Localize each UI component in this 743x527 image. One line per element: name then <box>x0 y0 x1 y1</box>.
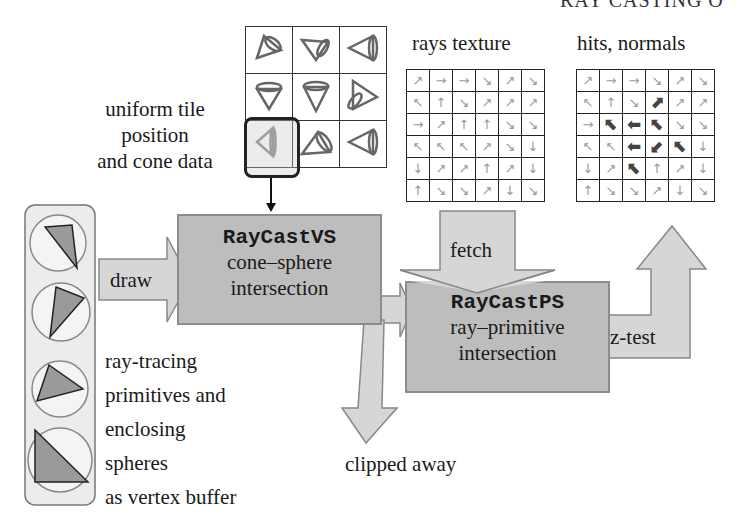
ray-direction-arrow-icon: ↘ <box>522 180 545 202</box>
ray-direction-arrow-icon: ↗ <box>600 158 623 180</box>
primitive-sphere-4 <box>28 428 92 492</box>
ray-direction-arrow-icon: ↗ <box>692 92 715 114</box>
uniform-label-line-3: and cone data <box>80 148 230 174</box>
ray-direction-arrow-icon: ↘ <box>522 114 545 136</box>
ray-direction-arrow-icon: ↗ <box>577 70 600 92</box>
rays-texture-title: rays texture <box>412 30 511 56</box>
cone-icon <box>296 122 336 162</box>
primitives-label-line-1: ray-tracing <box>105 344 236 378</box>
primitives-label-line-3: enclosing <box>105 412 236 446</box>
grid-row: ↑↘↘↗↓↘ <box>407 180 545 202</box>
cone-tile <box>246 27 293 74</box>
uniform-data-label: uniform tile position and cone data <box>80 96 230 174</box>
primitives-label: ray-tracing primitives and enclosing sph… <box>105 344 236 514</box>
ray-direction-arrow-icon: ↓ <box>669 180 692 202</box>
hit-normal-arrow-icon: ⬉ <box>623 158 646 180</box>
grid-row: ↖↑↘⬈↗↗ <box>577 92 715 114</box>
primitive-sphere-2 <box>32 283 90 341</box>
ray-direction-arrow-icon: ↑ <box>646 158 669 180</box>
grid-row: →⬉⬅⬉↘↘ <box>577 114 715 136</box>
ray-direction-arrow-icon: ↗ <box>522 92 545 114</box>
ray-direction-arrow-icon: ↓ <box>522 136 545 158</box>
ray-direction-arrow-icon: ↖ <box>453 136 476 158</box>
hit-normal-arrow-icon: ⬋ <box>646 136 669 158</box>
ray-direction-arrow-icon: ↗ <box>430 158 453 180</box>
cone-tile <box>340 121 387 168</box>
hit-normal-arrow-icon: ⬈ <box>646 92 669 114</box>
ray-direction-arrow-icon: → <box>577 114 600 136</box>
ray-direction-arrow-icon: ↗ <box>499 70 522 92</box>
ray-direction-arrow-icon: ↗ <box>669 70 692 92</box>
ray-direction-arrow-icon: ↓ <box>692 158 715 180</box>
raycast-ps-desc-2: intersection <box>407 340 608 366</box>
ray-direction-arrow-icon: ↗ <box>430 114 453 136</box>
ray-direction-arrow-icon: ↑ <box>476 158 499 180</box>
grid-row: →↗↑↑↘↘ <box>407 114 545 136</box>
primitive-sphere-1 <box>30 215 86 271</box>
ray-direction-arrow-icon: ↘ <box>499 114 522 136</box>
ray-direction-arrow-icon: ↘ <box>692 180 715 202</box>
ray-direction-arrow-icon: ↘ <box>522 70 545 92</box>
ray-direction-arrow-icon: ↓ <box>522 158 545 180</box>
ray-direction-arrow-icon: ↗ <box>476 92 499 114</box>
ray-direction-arrow-icon: ↗ <box>499 158 522 180</box>
ray-direction-arrow-icon: ↗ <box>669 92 692 114</box>
ray-direction-arrow-icon: ↑ <box>600 92 623 114</box>
ray-direction-arrow-icon: ↓ <box>577 158 600 180</box>
cone-icon <box>296 28 336 68</box>
ray-direction-arrow-icon: ↖ <box>577 136 600 158</box>
ray-direction-arrow-icon: ↘ <box>453 180 476 202</box>
ray-direction-arrow-icon: → <box>430 70 453 92</box>
cone-icon <box>249 28 289 68</box>
rays-texture-grid: ↗→→↘↗↘↖↑↘↗↗↗→↗↑↑↘↘↖↖↖↗↘↓↓↗↗↑↗↓↑↘↘↗↓↘ <box>406 69 545 202</box>
ray-direction-arrow-icon: ↗ <box>407 70 430 92</box>
grid-row: ↗→→↘↗↘ <box>577 70 715 92</box>
grid-row: ↗→→↘↗↘ <box>407 70 545 92</box>
cone-tile <box>293 74 340 121</box>
clipped-away-arrow <box>342 320 397 443</box>
ray-direction-arrow-icon: ↘ <box>646 70 669 92</box>
cone-icon <box>296 75 336 115</box>
ray-direction-arrow-icon: ↗ <box>476 136 499 158</box>
primitives-label-line-2: primitives and <box>105 378 236 412</box>
raycast-vs-box: RayCastVS cone–sphere intersection <box>177 214 382 325</box>
ray-direction-arrow-icon: ↘ <box>669 114 692 136</box>
z-test-label: z-test <box>610 324 655 350</box>
cone-tile <box>246 74 293 121</box>
ray-direction-arrow-icon: ↖ <box>407 92 430 114</box>
raycast-ps-name: RayCastPS <box>407 291 608 314</box>
raycast-vs-name: RayCastVS <box>179 226 380 249</box>
clipped-away-label: clipped away <box>345 451 456 477</box>
fetch-label: fetch <box>450 237 492 263</box>
cone-icon <box>343 122 383 162</box>
ray-direction-arrow-icon: ↘ <box>499 136 522 158</box>
ray-direction-arrow-icon: ↘ <box>623 180 646 202</box>
ray-direction-arrow-icon: ↘ <box>692 70 715 92</box>
primitives-label-line-4: spheres <box>105 446 236 480</box>
raycast-ps-desc-1: ray–primitive <box>407 314 608 340</box>
ray-direction-arrow-icon: ↖ <box>600 136 623 158</box>
ray-direction-arrow-icon: ↓ <box>407 158 430 180</box>
primitive-sphere-3 <box>32 361 88 417</box>
grid-row: ↓↗↗↑↗↓ <box>407 158 545 180</box>
ray-direction-arrow-icon: → <box>600 70 623 92</box>
ray-direction-arrow-icon: ↗ <box>499 92 522 114</box>
ray-direction-arrow-icon: → <box>407 114 430 136</box>
ray-direction-arrow-icon: ↗ <box>453 158 476 180</box>
ray-direction-arrow-icon: ↑ <box>577 180 600 202</box>
primitives-label-line-5: as vertex buffer <box>105 480 236 514</box>
ray-direction-arrow-icon: ↘ <box>453 92 476 114</box>
selected-tile-highlight <box>244 117 300 178</box>
grid-row: ↓↗⬉↑↗↓ <box>577 158 715 180</box>
raycast-ps-box: RayCastPS ray–primitive intersection <box>405 281 610 393</box>
grid-row: ↖↖↖↗↘↓ <box>407 136 545 158</box>
ray-direction-arrow-icon: ↑ <box>453 114 476 136</box>
hit-normal-arrow-icon: ⬅ <box>623 114 646 136</box>
ray-direction-arrow-icon: ↗ <box>646 180 669 202</box>
cone-icon <box>249 75 289 115</box>
cone-tile <box>293 27 340 74</box>
grid-row: ↖↖⬅⬋⬉↓ <box>577 136 715 158</box>
ray-direction-arrow-icon: ↘ <box>623 92 646 114</box>
raycast-vs-desc-2: intersection <box>179 275 380 301</box>
grid-row: ↖↑↘↗↗↗ <box>407 92 545 114</box>
